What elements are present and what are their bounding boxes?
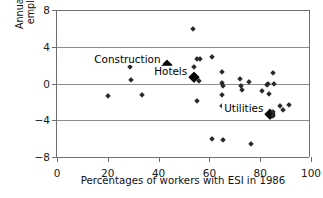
y-tick-label: 0 bbox=[43, 78, 50, 89]
data-point bbox=[248, 141, 254, 147]
x-tick-mark bbox=[260, 157, 261, 162]
point-annotation-utilities: Utilities bbox=[222, 103, 265, 113]
y-tick-label: 4 bbox=[43, 42, 50, 53]
data-point bbox=[105, 93, 111, 99]
x-tick-mark bbox=[159, 157, 160, 162]
data-point bbox=[270, 70, 276, 76]
y-tick-mark bbox=[52, 120, 57, 121]
data-point bbox=[280, 107, 286, 113]
y-tick-mark bbox=[52, 47, 57, 48]
data-point bbox=[220, 137, 226, 143]
y-tick-label: 8 bbox=[43, 5, 50, 16]
data-point bbox=[219, 69, 225, 75]
data-point bbox=[209, 54, 215, 60]
x-tick-mark bbox=[209, 157, 210, 162]
x-tick-mark bbox=[311, 157, 312, 162]
data-point bbox=[237, 76, 243, 82]
data-point bbox=[209, 136, 215, 142]
data-point bbox=[259, 88, 265, 94]
scatter-chart-figure: Annual percentage change in employment, … bbox=[0, 0, 323, 198]
data-point bbox=[266, 91, 272, 97]
data-point bbox=[219, 92, 225, 98]
y-tick-label: −4 bbox=[35, 115, 50, 126]
data-point bbox=[190, 26, 196, 32]
plot-area: 840−4−8020406080100ConstructionHotelsUti… bbox=[56, 10, 310, 157]
y-tick-mark bbox=[52, 84, 57, 85]
gridline-y-4 bbox=[57, 47, 309, 48]
y-tick-label: −8 bbox=[35, 152, 50, 163]
point-annotation-hotels: Hotels bbox=[152, 66, 189, 76]
gridline-y--4 bbox=[57, 120, 309, 121]
data-point bbox=[271, 81, 277, 87]
y-axis-title: Annual percentage change in employment, … bbox=[2, 0, 24, 32]
x-tick-mark bbox=[108, 157, 109, 162]
point-annotation-construction: Construction bbox=[92, 54, 162, 64]
y-tick-mark bbox=[52, 10, 57, 11]
data-point bbox=[194, 98, 200, 104]
y-axis-title-text: Annual percentage change in employment, … bbox=[14, 0, 37, 32]
x-axis-title: Percentages of workers with ESI in 1986 bbox=[56, 176, 310, 186]
data-point bbox=[239, 87, 245, 93]
x-tick-mark bbox=[57, 157, 58, 162]
data-point bbox=[191, 64, 197, 70]
data-point bbox=[220, 83, 226, 89]
data-point bbox=[286, 102, 292, 108]
data-point bbox=[139, 92, 145, 98]
gridline-y-8 bbox=[57, 10, 309, 11]
gridline-y--8 bbox=[57, 157, 309, 158]
data-point bbox=[128, 77, 134, 83]
